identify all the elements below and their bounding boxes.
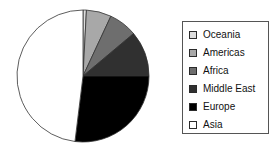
legend-item-europe[interactable]: Europe	[189, 98, 268, 116]
legend-swatch-oceania	[189, 31, 197, 39]
pie-slice-europe[interactable]	[75, 76, 149, 142]
legend-swatch-africa	[189, 67, 197, 75]
legend-item-africa[interactable]: Africa	[189, 62, 268, 80]
legend-item-middle-east[interactable]: Middle East	[189, 80, 268, 98]
legend-item-asia[interactable]: Asia	[189, 116, 268, 134]
legend-label-middle-east: Middle East	[203, 80, 255, 98]
legend-swatch-americas	[189, 49, 197, 57]
pie-chart-figure: Oceania Americas Africa Middle East Euro…	[0, 0, 276, 155]
legend-swatch-middle-east	[189, 85, 197, 93]
legend-swatch-asia	[189, 121, 197, 129]
pie-slice-asia[interactable]	[17, 10, 83, 142]
pie-svg	[0, 0, 176, 155]
legend-label-asia: Asia	[203, 116, 222, 134]
legend-item-oceania[interactable]: Oceania	[189, 26, 268, 44]
legend-item-americas[interactable]: Americas	[189, 44, 268, 62]
legend-label-oceania: Oceania	[203, 26, 240, 44]
legend-label-africa: Africa	[203, 62, 229, 80]
chart-legend: Oceania Americas Africa Middle East Euro…	[182, 21, 269, 134]
pie-plot-area	[0, 0, 176, 155]
legend-label-europe: Europe	[203, 98, 235, 116]
legend-swatch-europe	[189, 103, 197, 111]
pie-slice-group	[17, 10, 149, 142]
legend-label-americas: Americas	[203, 44, 245, 62]
